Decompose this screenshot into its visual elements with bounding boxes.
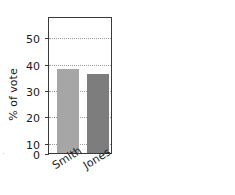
bar-smith-full-scale [57,69,79,153]
tick-20: 20 [45,117,49,118]
plot-area-full-scale: 50 40 30 20 10 0 [48,17,112,154]
tick-40: 40 [45,65,49,66]
ytick-label-20: 20 [26,112,40,125]
tick-30: 30 [45,91,49,92]
bar-jones-full-scale [87,74,109,153]
y-axis-title-left: % of vote [7,64,20,126]
gridline-50 [49,38,111,39]
ytick-label-0: 0 [33,149,40,162]
chart-panel-full-scale: % of vote 50 40 30 20 10 [0,0,120,195]
tick-50: 50 [45,38,49,39]
ytick-label-50: 50 [26,33,40,46]
chart-panel-truncated-scale: % of vote 33 32 31 30 [118,0,235,195]
figure-two-bar-charts: % of vote 50 40 30 20 10 [0,0,235,195]
scan-edge-artifact: · [2,150,7,159]
ytick-label-40: 40 [26,59,40,72]
ytick-label-30: 30 [26,86,40,99]
tick-0: 0 [45,154,49,155]
tick-10: 10 [45,144,49,145]
gridline-40 [49,65,111,66]
